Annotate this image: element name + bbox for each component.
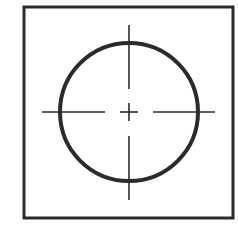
background — [0, 0, 238, 241]
drawing-canvas — [0, 0, 238, 241]
